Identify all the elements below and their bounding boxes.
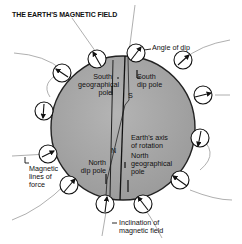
label-s-marker: S	[128, 92, 133, 100]
compass-icon	[39, 145, 57, 163]
compass-icon	[88, 50, 106, 68]
label-north-dip-pole: North dip pole	[76, 159, 106, 175]
compass-icon	[60, 176, 78, 194]
compass-icon	[194, 86, 212, 104]
label-angle-of-dip: Angle of dip	[152, 44, 190, 52]
magnetic-field-diagram	[0, 0, 242, 244]
label-south-geographical-pole: South geographical pole	[78, 73, 112, 97]
label-inclination-of-magnetic-field: Inclination of magnetic field	[119, 219, 163, 235]
compass-icon	[134, 195, 152, 213]
label-n-marker: N	[111, 147, 116, 155]
compass-icon	[53, 64, 71, 82]
compass-icon	[174, 51, 192, 69]
compass-icon	[191, 129, 209, 147]
label-south-dip-pole: South dip pole	[137, 73, 162, 89]
label-earths-axis: Earth's axis of rotation	[131, 134, 168, 150]
label-north-geographical-pole: North geographical pole	[131, 152, 172, 176]
compass-icon	[96, 195, 114, 213]
compass-icon	[171, 171, 189, 189]
compass-icon	[35, 102, 53, 120]
compass-icon	[127, 44, 145, 62]
label-magnetic-lines-of-force: Magnetic lines of force	[29, 165, 58, 189]
